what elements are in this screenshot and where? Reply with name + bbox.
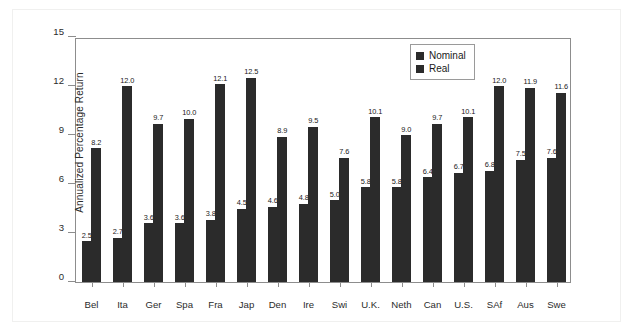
x-tick-mark xyxy=(433,282,434,287)
bar-nominal xyxy=(153,124,163,282)
bar-nominal xyxy=(122,86,132,282)
bar-value-label: 11.6 xyxy=(549,83,573,91)
y-tick-label: 3 xyxy=(42,223,64,233)
legend-label: Nominal xyxy=(429,51,466,61)
bar-group: 3.69.7 xyxy=(144,39,163,282)
x-tick-mark xyxy=(526,282,527,287)
bar-group: 2.712.0 xyxy=(113,39,132,282)
bar-value-label: 9.5 xyxy=(301,117,325,125)
x-tick-mark xyxy=(495,282,496,287)
bar-value-label: 7.6 xyxy=(332,148,356,156)
x-tick-mark xyxy=(154,282,155,287)
bar-group: 2.58.2 xyxy=(82,39,101,282)
bar-nominal xyxy=(401,135,411,282)
bar-real xyxy=(330,200,340,282)
x-tick-mark xyxy=(247,282,248,287)
x-tick-label-swe: Swe xyxy=(527,299,587,310)
bar-value-label: 8.9 xyxy=(270,127,294,135)
bar-group: 5.07.6 xyxy=(330,39,349,282)
bar-value-label: 12.1 xyxy=(208,75,232,83)
legend-label: Real xyxy=(429,64,450,74)
bar-real xyxy=(485,171,495,282)
x-tick-mark xyxy=(371,282,372,287)
bar-real xyxy=(392,187,402,282)
y-tick-mark xyxy=(68,281,76,282)
bar-real xyxy=(299,204,309,282)
bar-value-label: 12.5 xyxy=(239,68,263,76)
bar-real xyxy=(113,238,123,282)
x-tick-mark xyxy=(340,282,341,287)
y-tick-label: 0 xyxy=(42,272,64,282)
bar-value-label: 9.7 xyxy=(425,114,449,122)
y-tick-label: 9 xyxy=(42,125,64,135)
legend-swatch-icon xyxy=(416,65,424,73)
y-tick-mark xyxy=(68,134,76,135)
y-tick-mark xyxy=(68,85,76,86)
x-tick-mark xyxy=(309,282,310,287)
x-tick-mark xyxy=(216,282,217,287)
bar-nominal xyxy=(91,148,101,282)
bar-value-label: 10.1 xyxy=(456,108,480,116)
bar-real xyxy=(454,173,464,282)
bar-value-label: 12.0 xyxy=(115,77,139,85)
bar-nominal xyxy=(370,117,380,282)
bar-group: 4.68.9 xyxy=(268,39,287,282)
bar-group: 7.611.6 xyxy=(547,39,566,282)
bar-value-label: 9.0 xyxy=(394,126,418,134)
bar-real xyxy=(423,177,433,282)
legend-swatch-icon xyxy=(416,52,424,60)
bar-group: 5.89.0 xyxy=(392,39,411,282)
bar-nominal xyxy=(463,117,473,282)
bar-real xyxy=(175,223,185,282)
bar-nominal xyxy=(556,93,566,282)
bar-real xyxy=(82,241,92,282)
bar-real xyxy=(361,187,371,282)
bar-group: 4.512.5 xyxy=(237,39,256,282)
bar-nominal xyxy=(277,137,287,282)
x-tick-mark xyxy=(557,282,558,287)
bar-real xyxy=(516,160,526,283)
bar-value-label: 9.7 xyxy=(146,114,170,122)
y-tick-mark xyxy=(68,36,76,37)
bar-nominal xyxy=(432,124,442,282)
bar-real xyxy=(144,223,154,282)
x-tick-mark xyxy=(464,282,465,287)
bars-layer: 2.58.22.712.03.69.73.610.03.812.14.512.5… xyxy=(76,39,570,282)
bar-nominal xyxy=(215,84,225,282)
legend-item-real[interactable]: Real xyxy=(416,62,466,75)
y-tick-mark xyxy=(68,183,76,184)
x-tick-mark xyxy=(278,282,279,287)
legend-item-nominal[interactable]: Nominal xyxy=(416,49,466,62)
x-tick-mark xyxy=(123,282,124,287)
bar-nominal xyxy=(494,86,504,282)
bar-group: 5.810.1 xyxy=(361,39,380,282)
chart-figure: Annualized Percentage Return 03691215 Be… xyxy=(0,0,635,336)
bar-value-label: 10.1 xyxy=(363,108,387,116)
bar-real xyxy=(237,209,247,283)
x-tick-mark xyxy=(185,282,186,287)
bar-real xyxy=(547,158,557,282)
y-tick-label: 12 xyxy=(42,76,64,86)
bar-group: 3.610.0 xyxy=(175,39,194,282)
y-tick-label: 6 xyxy=(42,174,64,184)
bar-group: 4.89.5 xyxy=(299,39,318,282)
bar-group: 3.812.1 xyxy=(206,39,225,282)
bar-nominal xyxy=(308,127,318,282)
bar-real xyxy=(206,220,216,282)
bar-nominal xyxy=(184,119,194,282)
bar-group: 7.511.9 xyxy=(516,39,535,282)
bar-nominal xyxy=(525,88,535,282)
x-tick-mark xyxy=(402,282,403,287)
y-tick-label: 15 xyxy=(42,27,64,37)
bar-value-label: 8.2 xyxy=(84,139,108,147)
x-tick-mark xyxy=(92,282,93,287)
bar-value-label: 11.9 xyxy=(518,78,542,86)
chart-legend: NominalReal xyxy=(410,44,475,80)
plot-area: Annualized Percentage Return 03691215 Be… xyxy=(75,38,571,283)
bar-real xyxy=(268,207,278,282)
bar-nominal xyxy=(339,158,349,282)
bar-nominal xyxy=(246,78,256,282)
bar-value-label: 10.0 xyxy=(177,109,201,117)
bar-value-label: 12.0 xyxy=(487,77,511,85)
bar-group: 6.812.0 xyxy=(485,39,504,282)
